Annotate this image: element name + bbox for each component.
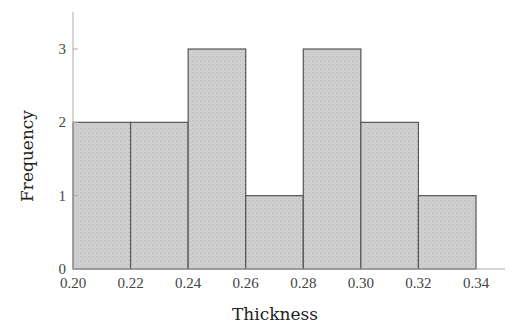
x-tick-label: 0.28 [290, 275, 316, 291]
histogram-bar [418, 196, 476, 269]
x-tick-label: 0.32 [405, 275, 431, 291]
histogram-bar [361, 122, 419, 269]
y-axis-title: Frequency [17, 110, 37, 202]
x-axis-title: Thickness [232, 304, 318, 324]
bars-group [73, 49, 476, 269]
x-tick-label: 0.22 [117, 275, 143, 291]
histogram-chart: 0123 0.200.220.240.260.280.300.320.34 Th… [0, 0, 515, 328]
histogram-bar [73, 122, 131, 269]
histogram-bar [303, 49, 361, 269]
x-tick-label: 0.24 [175, 275, 202, 291]
histogram-bar [246, 196, 304, 269]
histogram-bar [131, 122, 189, 269]
x-tick-label: 0.30 [348, 275, 374, 291]
x-tick-label: 0.20 [60, 275, 86, 291]
y-tick-label: 2 [59, 114, 67, 130]
x-axis-ticks: 0.200.220.240.260.280.300.320.34 [60, 275, 490, 291]
histogram-bar [188, 49, 246, 269]
y-tick-label: 1 [59, 188, 67, 204]
y-tick-label: 3 [59, 41, 67, 57]
x-tick-label: 0.34 [463, 275, 490, 291]
x-tick-label: 0.26 [233, 275, 260, 291]
